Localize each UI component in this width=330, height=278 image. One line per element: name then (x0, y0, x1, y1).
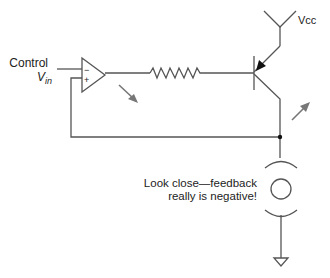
vcc-symbol (264, 11, 296, 27)
junction-dot (278, 135, 282, 139)
transistor-collector (254, 74, 280, 158)
ground-icon (274, 258, 288, 266)
vin-label: Vin (37, 70, 52, 86)
feedback-wire (71, 78, 280, 137)
resistor (150, 68, 202, 78)
lamp (265, 162, 297, 217)
note-line-2: really is negative! (168, 190, 257, 202)
note-line-1: Look close—feedback (144, 177, 257, 189)
opamp-plus-label: + (84, 75, 89, 85)
circuit-diagram: − + Control Vin Vcc Look close—feedback … (0, 0, 330, 278)
control-label: Control (9, 56, 48, 70)
opamp-minus-label: − (84, 65, 89, 75)
vcc-label: Vcc (298, 14, 317, 26)
